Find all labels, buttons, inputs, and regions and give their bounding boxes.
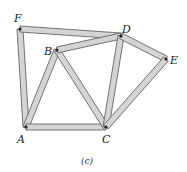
label-b: B — [43, 45, 52, 58]
label-f: F — [13, 12, 22, 25]
pin-a — [24, 125, 27, 128]
member-de — [120, 33, 168, 61]
member-bc — [54, 48, 108, 128]
label-c: C — [102, 133, 111, 146]
label-d: D — [121, 23, 131, 36]
pin-f — [18, 27, 21, 30]
label-e: E — [169, 54, 178, 67]
figure-caption: (c) — [81, 156, 94, 166]
truss-diagram: F B D E A C (c) — [0, 0, 187, 172]
truss-members — [17, 26, 168, 130]
pin-b — [55, 48, 58, 51]
pin-e — [164, 57, 167, 60]
member-fa — [17, 29, 29, 127]
member-ab — [23, 49, 60, 128]
pin-c — [104, 125, 107, 128]
member-ac — [26, 124, 106, 130]
label-a: A — [16, 133, 25, 146]
